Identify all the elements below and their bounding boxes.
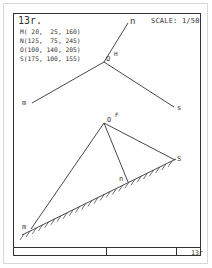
lower-label-s: S: [177, 156, 181, 163]
lower-label-m: m: [22, 224, 26, 231]
lower-label-o: O: [107, 117, 111, 124]
upper-label-n: n: [130, 17, 135, 26]
sheet-code: 13r: [191, 249, 203, 257]
upper-line-o-m: [32, 62, 104, 103]
lower-label-n: n: [119, 176, 123, 183]
upper-label-o: O: [106, 56, 110, 63]
lower-line-o-m: [31, 123, 104, 229]
title-block-divider: [106, 248, 107, 256]
title-block: 13r: [13, 247, 201, 256]
lower-line-o-s: [104, 123, 175, 160]
upper-label-o-sup: H: [114, 51, 118, 57]
title-block-divider: [176, 248, 177, 256]
upper-label-m: m: [22, 100, 26, 107]
geometry-canvas: [0, 0, 212, 268]
lower-label-o-sup: F: [115, 112, 119, 118]
ground-hatching: [20, 161, 172, 240]
upper-line-o-s: [104, 62, 174, 107]
upper-label-s: s: [177, 105, 181, 112]
lower-line-o-n: [104, 123, 128, 182]
